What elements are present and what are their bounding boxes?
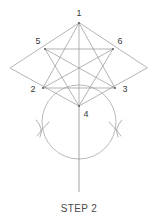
figure-page: 1 5 6 2 3 4 STEP 2 [0, 0, 156, 221]
geometry-diagram: 1 5 6 2 3 4 STEP 2 [0, 0, 156, 221]
vertex-label-5: 5 [35, 36, 40, 46]
step-caption: STEP 2 [61, 203, 98, 214]
vertex-label-6: 6 [117, 36, 122, 46]
vertex-dot-2 [42, 87, 44, 89]
arc-left-a [36, 120, 41, 137]
line-4-to-5 [45, 49, 79, 106]
vertex-dot-1 [78, 22, 80, 24]
line-4-to-6 [79, 49, 113, 106]
construction-lines [43, 23, 115, 106]
vertex-dot-6 [112, 48, 114, 50]
vertex-label-3: 3 [122, 84, 127, 94]
vertex-dot-3 [114, 87, 116, 89]
vertex-dot-5 [44, 48, 46, 50]
vertex-label-2: 2 [30, 84, 35, 94]
arc-right-b [109, 122, 121, 136]
vertex-label-1: 1 [76, 8, 81, 18]
vertex-dot-4 [78, 105, 80, 107]
vertex-label-4: 4 [83, 109, 88, 119]
arc-left-b [37, 122, 49, 136]
arc-right-a [117, 120, 122, 137]
